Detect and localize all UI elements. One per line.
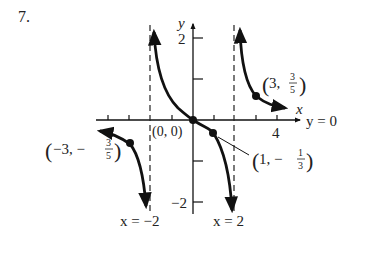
- point-3-three-fifths: [252, 92, 260, 100]
- svg-text:): ): [299, 72, 306, 97]
- rational-function-graph: 7. y x 2 −2 4 y = 0 x = −2 x = 2: [0, 0, 375, 255]
- problem-number: 7.: [18, 8, 30, 25]
- y-axis-label: y: [176, 15, 185, 31]
- svg-text:3: 3: [290, 71, 295, 82]
- svg-text:5: 5: [106, 150, 111, 161]
- tick-label-2: 2: [178, 31, 186, 47]
- label-x-equals-neg2: x = −2: [120, 213, 159, 229]
- svg-text:1, −: 1, −: [259, 151, 282, 167]
- label-y-equals-0: y = 0: [306, 113, 337, 129]
- svg-text:−3, −: −3, −: [53, 141, 85, 157]
- svg-text:1: 1: [298, 147, 303, 158]
- svg-text:): ): [114, 138, 121, 163]
- point-origin: [189, 116, 197, 124]
- svg-text:): ): [306, 148, 313, 173]
- label-x-equals-2: x = 2: [213, 213, 244, 229]
- svg-text:3: 3: [298, 160, 303, 171]
- point-neg3-neg-three-fifths: [126, 139, 134, 147]
- svg-text:(: (: [45, 138, 52, 163]
- label-point-3-three-fifths: ( 3, 3 5 ): [262, 71, 306, 97]
- label-point-1-neg-third: ( 1, − 1 3 ): [252, 147, 313, 173]
- point-1-neg-third: [209, 129, 217, 137]
- svg-text:3,: 3,: [269, 75, 280, 91]
- tick-label-4: 4: [272, 125, 280, 141]
- tick-label-neg2: −2: [171, 195, 187, 211]
- label-origin: (0, 0): [152, 124, 183, 140]
- x-axis-label: x: [295, 101, 303, 117]
- label-point-neg3-neg-three-fifths: ( −3, − 3 5 ): [45, 137, 121, 163]
- svg-text:5: 5: [290, 84, 295, 95]
- svg-text:3: 3: [106, 137, 111, 148]
